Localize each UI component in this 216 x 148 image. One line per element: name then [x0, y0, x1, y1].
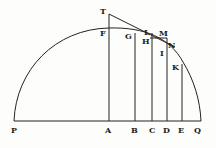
label-l: L — [144, 27, 150, 37]
label-d: D — [163, 125, 170, 135]
label-f: F — [100, 28, 106, 38]
label-i: I — [160, 48, 164, 58]
label-n: N — [168, 40, 175, 50]
label-a: A — [104, 125, 112, 135]
geometric-diagram: T F G H L M N I K P A B C D E Q — [0, 0, 216, 148]
label-b: B — [131, 125, 138, 135]
label-t: T — [100, 6, 106, 16]
label-m: M — [159, 28, 168, 38]
label-k: K — [172, 62, 180, 72]
label-q: Q — [194, 125, 201, 135]
label-c: C — [149, 125, 155, 135]
label-p: P — [11, 125, 17, 135]
label-e: E — [178, 125, 184, 135]
label-h: H — [142, 36, 150, 46]
label-g: G — [125, 31, 132, 41]
